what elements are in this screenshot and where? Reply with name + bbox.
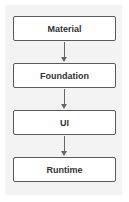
arrowhead-icon bbox=[61, 151, 67, 156]
arrowhead-icon bbox=[61, 57, 67, 62]
node-ui: UI bbox=[13, 110, 116, 135]
node-material: Material bbox=[13, 16, 116, 41]
node-label: Runtime bbox=[47, 165, 83, 175]
edge-material-foundation bbox=[64, 42, 65, 58]
node-label: Foundation bbox=[40, 71, 89, 81]
node-foundation: Foundation bbox=[13, 63, 116, 88]
edge-ui-runtime bbox=[64, 136, 65, 152]
edge-foundation-ui bbox=[64, 89, 65, 105]
arrowhead-icon bbox=[61, 104, 67, 109]
node-label: Material bbox=[47, 24, 81, 34]
node-runtime: Runtime bbox=[13, 157, 116, 182]
node-label: UI bbox=[60, 118, 69, 128]
